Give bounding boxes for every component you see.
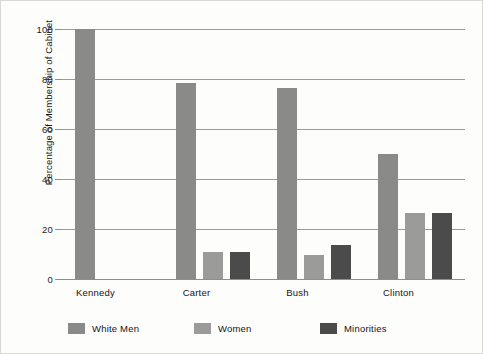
bar-clinton-women[interactable]	[405, 213, 425, 279]
y-axis-tick-marks	[1, 29, 61, 279]
legend-swatch-minorities	[320, 323, 337, 334]
bar-clinton-minorities[interactable]	[432, 213, 452, 279]
legend-label-white-men: White Men	[92, 323, 139, 334]
x-tick-bush: Bush	[286, 287, 308, 298]
legend-swatch-white-men	[68, 323, 85, 334]
x-tick-carter: Carter	[183, 287, 211, 298]
legend-item-white-men[interactable]: White Men	[68, 323, 139, 334]
plot-area	[61, 29, 465, 279]
bar-bush-white-men[interactable]	[277, 88, 297, 279]
bar-carter-women[interactable]	[203, 252, 223, 280]
bar-group-carter	[176, 29, 250, 279]
bar-carter-white-men[interactable]	[176, 83, 196, 279]
legend-label-minorities: Minorities	[344, 323, 387, 334]
x-tick-clinton: Clinton	[383, 287, 414, 298]
bar-group-kennedy	[75, 29, 149, 279]
bar-group-clinton	[378, 29, 452, 279]
legend-item-minorities[interactable]: Minorities	[320, 323, 387, 334]
gridline-0	[61, 279, 465, 280]
bar-bush-women[interactable]	[304, 255, 324, 279]
chart-page: Percentage of Membership of Cabinet 0204…	[0, 0, 483, 354]
legend-item-women[interactable]: Women	[194, 323, 252, 334]
bar-carter-minorities[interactable]	[230, 252, 250, 280]
bar-clinton-white-men[interactable]	[378, 154, 398, 279]
legend-swatch-women	[194, 323, 211, 334]
bar-group-bush	[277, 29, 351, 279]
x-tick-kennedy: Kennedy	[76, 287, 115, 298]
bar-kennedy-white-men[interactable]	[75, 29, 95, 279]
legend-label-women: Women	[218, 323, 252, 334]
bar-bush-minorities[interactable]	[331, 245, 351, 279]
